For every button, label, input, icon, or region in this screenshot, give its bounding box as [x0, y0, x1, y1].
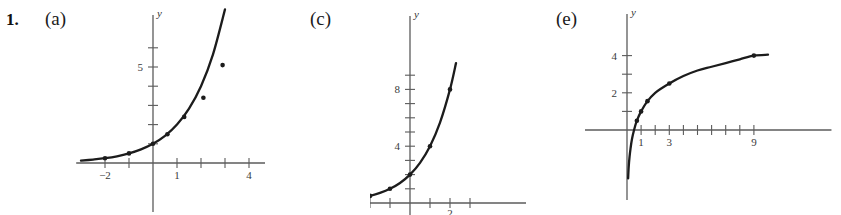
- x-tick-label: 2: [447, 207, 453, 215]
- y-tick-label: 2: [612, 87, 618, 99]
- data-point: [103, 156, 108, 161]
- x-tick-label: 1: [174, 169, 180, 181]
- graph-e: 13924y: [585, 0, 841, 215]
- graph-a: −2145yx: [35, 0, 265, 215]
- x-tick-label: 9: [751, 136, 757, 148]
- y-tick-label: 4: [395, 140, 401, 152]
- x-tick-label: 3: [667, 136, 673, 148]
- y-tick-label: 8: [395, 83, 401, 95]
- part-label-c: (c): [310, 8, 331, 30]
- x-tick-label: 1: [638, 136, 644, 148]
- y-axis-label: y: [156, 7, 162, 19]
- data-point: [182, 115, 187, 120]
- y-axis-label: y: [413, 8, 419, 20]
- x-tick-label: 4: [246, 169, 252, 181]
- data-point: [220, 63, 225, 68]
- data-point: [667, 81, 672, 86]
- plot-e: 13924y: [585, 0, 841, 215]
- graph-c: 248yx: [370, 0, 530, 215]
- y-tick-label: 5: [138, 61, 144, 73]
- data-point: [388, 187, 393, 192]
- data-point: [408, 172, 413, 177]
- data-curve: [628, 55, 768, 179]
- data-point: [645, 99, 650, 104]
- data-point: [151, 142, 156, 147]
- data-point: [428, 144, 433, 149]
- data-point: [127, 151, 132, 156]
- plot-c: 248yx: [370, 0, 530, 215]
- data-point: [201, 95, 206, 100]
- data-point: [639, 109, 644, 114]
- data-point: [635, 118, 640, 123]
- plot-a: −2145yx: [35, 0, 265, 215]
- data-point: [752, 53, 757, 58]
- data-point: [165, 132, 170, 137]
- part-label-e: (e): [556, 8, 577, 30]
- x-tick-label: −2: [99, 169, 111, 181]
- y-axis-label: y: [630, 6, 636, 18]
- y-tick-label: 4: [612, 50, 618, 62]
- problem-number: 1.: [6, 10, 19, 30]
- data-point: [448, 87, 453, 92]
